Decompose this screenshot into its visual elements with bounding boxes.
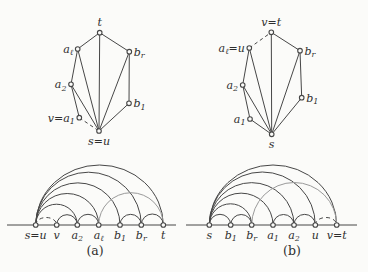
point-label-s: s <box>206 229 212 242</box>
arc-a2-u <box>294 214 315 225</box>
edge-a2-s <box>243 85 272 134</box>
point-br <box>139 223 144 228</box>
point-t <box>334 223 339 228</box>
vertex-label-a2: a2​ <box>227 79 239 94</box>
arc-s-t <box>209 165 336 225</box>
arc-s-b1 <box>209 214 230 225</box>
edge-t-br <box>100 33 130 52</box>
vertex-label-br: br​ <box>305 45 317 60</box>
vertex-a2 <box>69 82 74 87</box>
vertex-a2 <box>240 83 245 88</box>
edge-b1-s <box>272 98 302 135</box>
arc-al-t <box>99 193 164 225</box>
point-s <box>33 223 38 228</box>
point-label-b1: b1​ <box>114 229 126 244</box>
point-v <box>54 223 59 228</box>
caption-b: (b) <box>283 243 301 258</box>
vertex-label-a2: a2​ <box>55 78 67 93</box>
vertex-s <box>97 129 102 134</box>
point-label-s: s=u <box>25 229 47 242</box>
vertex-label-a1: a1​ <box>234 113 246 128</box>
caption-a: (a) <box>86 243 103 258</box>
vertex-label-br: br​ <box>134 46 146 61</box>
vertex-label-b1: b1​ <box>134 97 146 112</box>
arc-b1-br <box>231 215 252 226</box>
point-a1 <box>271 223 276 228</box>
vertex-label-t: v=t <box>261 16 281 29</box>
edge-t-s <box>99 33 100 131</box>
point-br <box>249 223 254 228</box>
arc-u-t <box>315 217 336 225</box>
vertex-label-s: s=u <box>88 135 110 148</box>
point-s <box>207 223 212 228</box>
arc-s-br <box>36 172 142 225</box>
arc-v-a2 <box>57 215 78 225</box>
vertex-label-b1: b1​ <box>306 92 318 107</box>
vertex-label-u: aℓ​=u <box>219 42 245 57</box>
edge-u-t <box>249 32 271 48</box>
arc-s-a2 <box>36 204 78 225</box>
vertex-al <box>75 47 80 52</box>
point-label-u: u <box>312 229 319 242</box>
vertex-label-al: aℓ​ <box>63 43 74 58</box>
point-label-br: br​ <box>136 229 148 244</box>
arc-br-t <box>141 214 163 225</box>
arc-s-v <box>36 218 57 225</box>
point-label-a1: a1​ <box>267 229 279 244</box>
vertex-label-t: t <box>97 16 102 29</box>
point-label-t: t <box>161 229 166 242</box>
edge-a2-a1 <box>243 85 250 119</box>
edge-br-s <box>272 51 300 135</box>
arc-s-u <box>209 172 315 225</box>
edge-a2-s <box>71 84 99 131</box>
edge-br-b1 <box>300 51 302 98</box>
vertex-label-s: s <box>269 138 275 151</box>
point-label-v: v <box>54 229 61 242</box>
graph-figure: taℓ​br​a2​b1​v=a1​s=us=uva2​aℓ​b1​br​t(a… <box>0 0 368 272</box>
vertex-s <box>269 132 274 137</box>
point-label-a2: a2​ <box>71 229 83 244</box>
arc-b1-br <box>120 214 141 225</box>
vertex-a1 <box>248 117 253 122</box>
edge-a2-v <box>71 84 79 117</box>
point-b1 <box>228 223 233 228</box>
vertex-v <box>77 115 82 120</box>
vertex-br <box>127 49 132 54</box>
point-label-al: aℓ​ <box>94 229 105 244</box>
point-label-br: br​ <box>246 229 258 244</box>
arc-a2-al <box>77 214 98 225</box>
figure-canvas: taℓ​br​a2​b1​v=a1​s=us=uva2​aℓ​b1​br​t(a… <box>0 0 368 272</box>
vertex-t <box>97 30 102 35</box>
vertex-label-v: v=a1​ <box>48 112 75 127</box>
vertex-br <box>298 48 303 53</box>
edge-t-br <box>271 32 300 50</box>
point-u <box>313 223 318 228</box>
point-label-b1: b1​ <box>225 229 237 244</box>
point-b1 <box>118 223 123 228</box>
edge-b1-s <box>99 103 129 131</box>
point-al <box>96 223 101 228</box>
edge-t-al <box>78 33 100 49</box>
point-label-a2: a2​ <box>288 229 300 244</box>
vertex-b1 <box>299 95 304 100</box>
vertex-b1 <box>127 101 132 106</box>
arc-a1-a2 <box>273 215 294 226</box>
point-label-t: v=t <box>327 229 347 242</box>
edge-br-s <box>99 52 129 131</box>
point-a2 <box>75 223 80 228</box>
point-t <box>161 223 166 228</box>
point-a2 <box>292 223 297 228</box>
vertex-t <box>269 30 274 35</box>
vertex-u <box>247 46 252 51</box>
